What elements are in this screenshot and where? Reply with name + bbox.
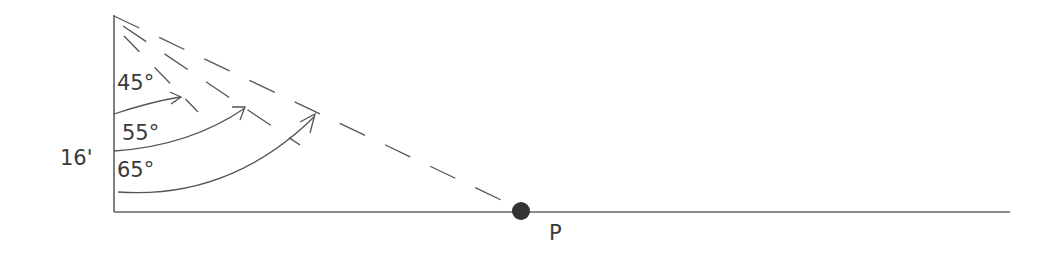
angle-label-65: 65° (117, 158, 154, 182)
point-label: P (549, 221, 562, 245)
height-label: 16' (60, 146, 93, 170)
point-p-marker (512, 202, 530, 220)
angle-label-55: 55° (122, 121, 159, 145)
angle-label-45: 45° (117, 71, 154, 95)
diagram-canvas: 16' 45° 55° 65° P (0, 0, 1058, 253)
angle-arc-45 (114, 97, 180, 114)
sight-line-65 (114, 16, 518, 208)
